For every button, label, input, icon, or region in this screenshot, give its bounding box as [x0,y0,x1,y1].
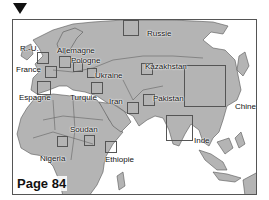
label-iran[interactable]: Iran [109,97,123,106]
page-label: Page 84 [16,176,67,191]
label-nigeria[interactable]: Nigeria [40,154,65,163]
region-box-soudan[interactable] [84,135,95,146]
region-box-ru[interactable] [37,52,49,64]
label-ethiopie[interactable]: Ethiopie [105,155,134,164]
label-ru[interactable]: R.-U. [20,44,39,53]
region-box-ethiopie[interactable] [105,141,117,153]
label-pakistan[interactable]: Pakistan [153,94,184,103]
label-inde[interactable]: Inde [194,136,210,145]
label-russie[interactable]: Russie [147,29,171,38]
label-ukraine[interactable]: Ukraine [95,71,123,80]
label-kazakhstan[interactable]: Kazakhstan [145,62,187,71]
map-frame: R.-U. Allemagne Pologne France Ukraine E… [12,19,257,195]
region-box-nigeria[interactable] [57,136,68,147]
label-allemagne[interactable]: Allemagne [57,46,95,55]
region-box-allemagne[interactable] [59,56,71,68]
label-soudan[interactable]: Soudan [70,125,98,134]
region-box-iran[interactable] [127,102,139,114]
label-espagne[interactable]: Espagne [19,93,51,102]
triangle-down-icon [13,3,27,14]
label-pologne[interactable]: Pologne [71,56,100,65]
region-box-france[interactable] [45,66,57,78]
label-france[interactable]: France [16,65,41,74]
label-chine[interactable]: Chine [235,102,256,111]
region-box-inde[interactable] [166,115,193,141]
label-turquie[interactable]: Turquie [70,93,97,102]
region-box-chine[interactable] [184,65,226,107]
region-box-russie[interactable] [123,20,139,36]
